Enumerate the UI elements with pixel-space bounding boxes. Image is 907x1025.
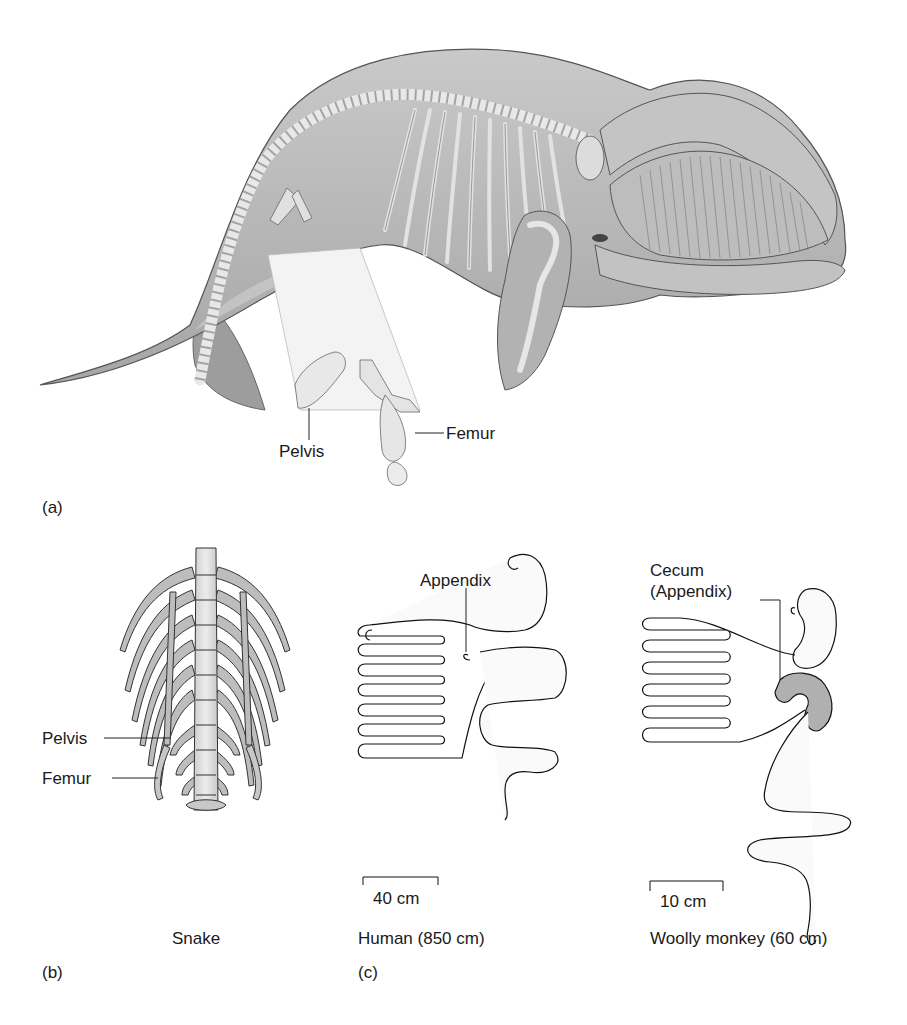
whale-pelvis-label: Pelvis: [279, 443, 324, 460]
panel-label-c: (c): [358, 964, 378, 981]
monkey-caption: Woolly monkey (60 cm): [650, 930, 827, 947]
human-gut-illustration: [358, 554, 566, 885]
monkey-scale-bar-label: 10 cm: [660, 893, 706, 910]
figure-artwork: [0, 0, 907, 1025]
human-caption: Human (850 cm): [358, 930, 485, 947]
monkey-appendix-label: (Appendix): [650, 583, 732, 600]
human-appendix-label: Appendix: [420, 572, 491, 589]
whale-femur-label: Femur: [446, 425, 495, 442]
snake-femur-label: Femur: [42, 770, 91, 787]
monkey-cecum-label: Cecum: [650, 562, 704, 579]
panel-label-a: (a): [42, 499, 63, 516]
whale-illustration: [40, 49, 846, 485]
snake-caption: Snake: [172, 930, 220, 947]
human-scale-bar-label: 40 cm: [373, 890, 419, 907]
panel-label-b: (b): [42, 964, 63, 981]
snake-pelvis-label: Pelvis: [42, 730, 87, 747]
snake-skeleton-illustration: [104, 548, 290, 810]
